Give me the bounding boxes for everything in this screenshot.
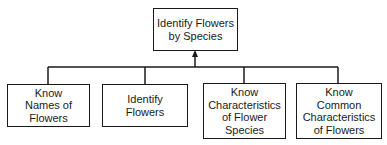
child3-line-2: Characteristics <box>208 99 281 112</box>
child3-line-3: of Flower <box>208 111 281 124</box>
child4-line-4: of Flowers <box>303 124 376 137</box>
child1-line-1: Know <box>25 87 72 100</box>
child4-line-1: Know <box>303 86 376 99</box>
root-node: Identify Flowers by Species <box>153 8 238 51</box>
root-line-1: Identify Flowers <box>157 17 234 30</box>
child1-line-2: Names of <box>25 99 72 112</box>
child-node-know-species-characteristics: Know Characteristics of Flower Species <box>203 83 286 139</box>
child3-line-4: Species <box>208 124 281 137</box>
child-node-know-names: Know Names of Flowers <box>7 84 90 127</box>
root-line-2: by Species <box>157 30 234 43</box>
child3-line-1: Know <box>208 86 281 99</box>
child1-line-3: Flowers <box>25 112 72 125</box>
child-node-know-common-characteristics: Know Common Characteristics of Flowers <box>296 83 382 139</box>
arrow-up-icon <box>192 50 198 57</box>
child4-line-2: Common <box>303 99 376 112</box>
child-node-identify-flowers: Identify Flowers <box>102 84 188 127</box>
child2-line-2: Flowers <box>126 106 165 119</box>
child2-line-1: Identify <box>126 93 165 106</box>
child4-line-3: Characteristics <box>303 111 376 124</box>
